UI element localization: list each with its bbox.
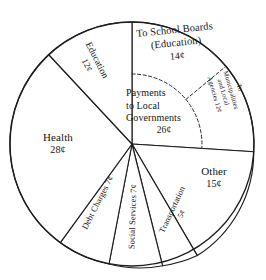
slice-payments-to-local-governments[interactable] [132,22,254,152]
pie-chart: Health 28¢ Other 15¢ Payments to Local G… [0,0,266,280]
pie-chart-svg [0,0,266,280]
